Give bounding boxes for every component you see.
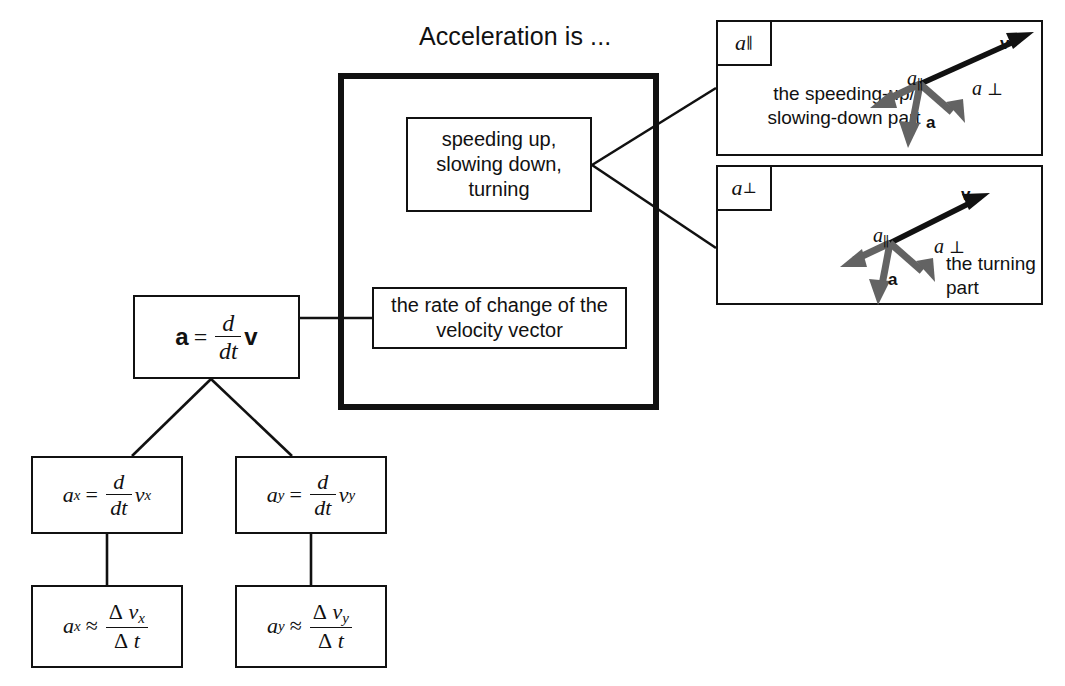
panel-a-perpendicular[interactable]: a⊥ a∥ a ⊥ a xyxy=(716,165,1043,305)
ax-approx-box[interactable]: ax ≈ Δ vx Δ t xyxy=(31,585,183,668)
concept-box[interactable]: speeding up, slowing down, turning xyxy=(406,117,592,212)
ax-rhs: v xyxy=(135,482,145,508)
ax-den-delta: Δ xyxy=(114,628,128,653)
panel-1-ap-sub: ∥ xyxy=(917,76,923,93)
concept-box-text: speeding up, slowing down, turning xyxy=(436,127,562,202)
concept-line-2: slowing down, xyxy=(436,152,562,177)
ax-approx-lhs: a xyxy=(63,613,74,639)
panel-1-tag-base: a xyxy=(735,30,746,56)
definition-box-text: the rate of change of the velocity vecto… xyxy=(391,293,608,343)
ax-num-var: v xyxy=(128,599,138,624)
panel-2-label-a-parallel: a∥ xyxy=(873,224,889,250)
definition-line-1: the rate of change of the xyxy=(391,293,608,318)
ay-rhs: v xyxy=(339,482,349,508)
ay-approx-fraction: Δ vy Δ t xyxy=(310,601,352,653)
main-eq-denominator: dt xyxy=(216,337,241,363)
ay-rhs-sub: y xyxy=(349,487,356,504)
ax-numerator: d xyxy=(110,471,127,494)
concept-line-3: turning xyxy=(436,177,562,202)
main-eq-numerator: d xyxy=(219,311,237,336)
ax-lhs: a xyxy=(63,482,74,508)
ay-approx-equals: ≈ xyxy=(290,613,302,639)
ax-approx-fraction: Δ vx Δ t xyxy=(106,601,148,653)
ax-num-sub: x xyxy=(138,611,145,626)
ay-approx-box[interactable]: ay ≈ Δ vy Δ t xyxy=(235,585,387,668)
panel-2-aperp-base: a xyxy=(934,235,944,257)
ax-lhs-sub: x xyxy=(74,487,81,504)
panel-2-ap-sub: ∥ xyxy=(883,233,889,250)
panel-2-ap-base: a xyxy=(873,224,883,246)
concept-line-1: speeding up, xyxy=(436,127,562,152)
main-eq-lhs: a xyxy=(175,323,188,351)
diagram-canvas: Acceleration is ... speeding up, slowing… xyxy=(0,0,1065,686)
ax-derivative-box[interactable]: ax = d dt vx xyxy=(31,456,183,534)
ay-approx-lhs-sub: y xyxy=(278,618,285,635)
ax-rhs-sub: x xyxy=(145,487,152,504)
ay-den-var: t xyxy=(338,628,344,653)
panel-2-tag-base: a xyxy=(731,175,742,201)
main-eq-rhs: v xyxy=(244,323,257,351)
panel-1-label-a: a xyxy=(926,113,935,133)
ay-den-delta: Δ xyxy=(318,628,332,653)
panel-2-label-a: a xyxy=(888,270,897,290)
ay-approx-equation: ay ≈ Δ vy Δ t xyxy=(267,601,355,653)
panel-1-ap-base: a xyxy=(907,67,917,89)
panel-2-caption-line-2: part xyxy=(946,276,1065,300)
ax-approx-lhs-sub: x xyxy=(74,618,81,635)
ax-approx-denominator: Δ t xyxy=(111,628,143,652)
main-equation-box[interactable]: a = d dt v xyxy=(133,295,300,379)
panel-a-perpendicular-caption: the turning part xyxy=(946,252,1065,300)
main-eq-equals: = xyxy=(194,324,208,351)
panel-2-tag-sub: ⊥ xyxy=(742,179,756,197)
ay-derivative-box[interactable]: ay = d dt vy xyxy=(235,456,387,534)
ax-denominator: dt xyxy=(107,495,130,519)
ay-denominator: dt xyxy=(311,495,334,519)
ay-equals: = xyxy=(289,482,301,508)
ay-num-sub: y xyxy=(342,611,349,626)
panel-a-parallel[interactable]: a∥ the speeding-up/ slowing-down part xyxy=(716,20,1043,156)
panel-2-caption-line-1: the turning xyxy=(946,252,1065,276)
ay-lhs: a xyxy=(267,482,278,508)
ax-derivative-equation: ax = d dt vx xyxy=(63,471,151,520)
ay-numerator: d xyxy=(314,471,331,494)
ax-equals: = xyxy=(85,482,97,508)
definition-line-2: velocity vector xyxy=(391,318,608,343)
panel-1-label-a-perpendicular: a ⊥ xyxy=(972,77,1003,100)
main-equation: a = d dt v xyxy=(175,311,257,364)
panel-1-vector-diagram xyxy=(868,22,1048,158)
panel-2-label-v: v xyxy=(961,185,970,205)
ax-approx-numerator: Δ vx xyxy=(106,601,148,627)
panel-a-perpendicular-tag: a⊥ xyxy=(716,165,772,211)
page-title: Acceleration is ... xyxy=(419,22,611,51)
ay-approx-denominator: Δ t xyxy=(315,628,347,652)
ax-approx-equation: ax ≈ Δ vx Δ t xyxy=(63,601,151,653)
ay-approx-numerator: Δ vy xyxy=(310,601,352,627)
ay-num-delta: Δ xyxy=(313,599,327,624)
ax-num-delta: Δ xyxy=(109,599,123,624)
panel-1-label-a-parallel: a∥ xyxy=(907,67,923,93)
main-eq-fraction: d dt xyxy=(215,311,241,364)
ay-derivative-equation: ay = d dt vy xyxy=(267,471,355,520)
ax-den-var: t xyxy=(134,628,140,653)
panel-a-parallel-tag: a∥ xyxy=(716,20,772,66)
ay-num-var: v xyxy=(332,599,342,624)
ax-approx-equals: ≈ xyxy=(86,613,98,639)
panel-1-aperp-base: a xyxy=(972,77,982,99)
ay-fraction: d dt xyxy=(310,471,336,520)
panel-1-tag-sub: ∥ xyxy=(746,34,753,52)
panel-1-aperp-sub: ⊥ xyxy=(987,79,1003,100)
ay-approx-lhs: a xyxy=(267,613,278,639)
definition-box[interactable]: the rate of change of the velocity vecto… xyxy=(372,287,627,349)
ay-lhs-sub: y xyxy=(278,487,285,504)
panel-1-label-v: v xyxy=(1000,34,1009,54)
ax-fraction: d dt xyxy=(106,471,132,520)
